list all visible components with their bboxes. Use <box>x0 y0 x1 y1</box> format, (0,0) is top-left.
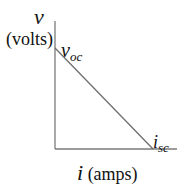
x-axis-unit: (amps) <box>88 164 138 184</box>
isc-sub: sc <box>158 140 169 155</box>
x-axis-title: i (amps) <box>77 162 138 184</box>
isc-label: isc <box>153 133 169 154</box>
x-axis-symbol: i <box>77 160 83 185</box>
y-axis-symbol: v <box>34 6 44 28</box>
voc-label: voc <box>61 40 82 63</box>
voc-base: v <box>61 39 70 61</box>
y-axis-unit: (volts) <box>6 30 53 48</box>
voc-sub: oc <box>70 49 82 64</box>
